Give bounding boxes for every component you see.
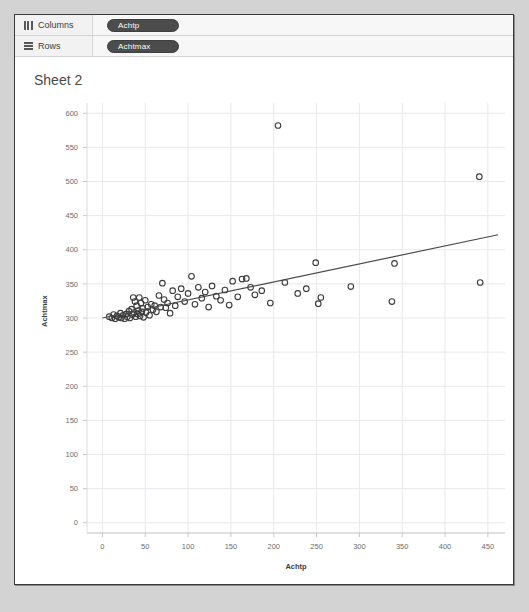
x-tick-label: 200 <box>267 542 280 551</box>
shelf-rows-dropzone[interactable]: Achtmax <box>92 36 513 56</box>
y-tick-label: 250 <box>65 348 78 357</box>
x-axis-title: Achtp <box>285 562 307 571</box>
trend-line <box>102 235 498 318</box>
data-point[interactable] <box>392 261 398 267</box>
sheet-title: Sheet 2 <box>34 72 82 88</box>
y-tick-label: 0 <box>74 518 78 527</box>
data-point[interactable] <box>389 299 395 305</box>
data-point[interactable] <box>189 274 195 280</box>
shelf-rows[interactable]: Rows Achtmax <box>15 36 513 57</box>
app-root: Columns Achtp Rows Achtmax Sheet 2 05010… <box>0 0 529 612</box>
y-tick-label: 150 <box>65 416 78 425</box>
data-point[interactable] <box>218 297 224 303</box>
data-point[interactable] <box>172 303 178 309</box>
data-point[interactable] <box>175 294 181 300</box>
worksheet-window: Columns Achtp Rows Achtmax Sheet 2 05010… <box>14 14 514 585</box>
data-point[interactable] <box>160 280 166 286</box>
data-point[interactable] <box>275 123 281 129</box>
data-point[interactable] <box>206 304 212 310</box>
data-point[interactable] <box>268 300 274 306</box>
y-tick-label: 550 <box>65 143 78 152</box>
data-point[interactable] <box>156 293 162 299</box>
data-point[interactable] <box>313 260 319 266</box>
data-point[interactable] <box>477 174 483 180</box>
x-tick-label: 400 <box>439 542 452 551</box>
axis-titles: AchtpAchtmax <box>40 295 307 571</box>
columns-icon <box>24 21 33 30</box>
data-point[interactable] <box>252 292 258 298</box>
data-point[interactable] <box>167 310 173 316</box>
x-tick-label: 300 <box>353 542 366 551</box>
data-point[interactable] <box>318 295 324 301</box>
x-tick-label: 350 <box>396 542 409 551</box>
y-tick-label: 600 <box>65 109 78 118</box>
shelf-rows-label-group: Rows <box>15 41 92 51</box>
data-point[interactable] <box>136 295 142 301</box>
shelf-columns[interactable]: Columns Achtp <box>15 15 513 36</box>
x-tick-label: 150 <box>225 542 238 551</box>
data-point[interactable] <box>192 302 198 308</box>
rows-icon <box>24 42 33 51</box>
y-tick-label: 400 <box>65 245 78 254</box>
data-point[interactable] <box>295 291 301 297</box>
shelf-rows-label: Rows <box>38 41 61 51</box>
x-tick-label: 250 <box>310 542 323 551</box>
y-tick-label: 350 <box>65 280 78 289</box>
data-point[interactable] <box>202 289 208 295</box>
data-point[interactable] <box>170 288 176 294</box>
data-point[interactable] <box>348 284 354 290</box>
y-tick-label: 50 <box>70 484 78 493</box>
y-tick-label: 200 <box>65 382 78 391</box>
y-axis-title: Achtmax <box>40 295 49 328</box>
y-tick-label: 300 <box>65 314 78 323</box>
pill-achtmax[interactable]: Achtmax <box>107 40 179 53</box>
data-point[interactable] <box>303 286 309 292</box>
data-point[interactable] <box>196 284 202 290</box>
y-tick-label: 500 <box>65 177 78 186</box>
data-point[interactable] <box>161 297 167 303</box>
x-tick-label: 50 <box>141 542 149 551</box>
data-points[interactable] <box>106 123 482 322</box>
pill-achtp[interactable]: Achtp <box>107 19 179 32</box>
data-point[interactable] <box>259 288 265 294</box>
data-point[interactable] <box>178 286 184 292</box>
x-tick-label: 100 <box>182 542 195 551</box>
axis-ticks: 0501001502002503003504004505005506000501… <box>65 103 505 551</box>
shelf-columns-dropzone[interactable]: Achtp <box>92 15 513 35</box>
shelf-columns-label-group: Columns <box>15 20 92 30</box>
x-tick-label: 450 <box>482 542 495 551</box>
y-tick-label: 100 <box>65 450 78 459</box>
x-tick-label: 0 <box>100 542 104 551</box>
data-point[interactable] <box>235 294 241 300</box>
data-point[interactable] <box>477 280 483 286</box>
scatter-chart[interactable]: 0501001502002503003504004505005506000501… <box>15 91 513 585</box>
worksheet-canvas[interactable]: Sheet 2 05010015020025030035040045050055… <box>15 57 513 584</box>
shelf-columns-label: Columns <box>38 20 74 30</box>
y-tick-label: 450 <box>65 211 78 220</box>
chart-svg: 0501001502002503003504004505005506000501… <box>15 91 513 585</box>
